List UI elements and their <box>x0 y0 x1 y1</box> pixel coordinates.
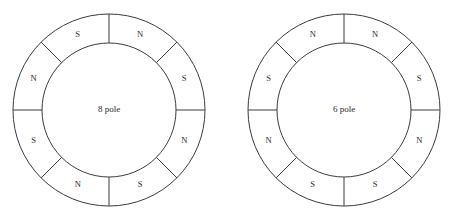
diagram-canvas: NSNSNSNS8 poleNSNSSNSN6 pole <box>0 0 455 221</box>
pole-segment-label: S <box>75 29 80 39</box>
pole-segment-label: N <box>181 135 187 145</box>
pole-segment-label: N <box>416 135 422 145</box>
pole-segment-label: N <box>310 29 316 39</box>
pole-segment-label: S <box>310 179 315 189</box>
pole-segment-label: N <box>75 179 81 189</box>
pole-segment-label: N <box>137 29 143 39</box>
left-diagram: NSNSNSNS8 pole <box>13 14 205 206</box>
right-diagram: NSNSSNSN6 pole <box>248 14 440 206</box>
pole-segment-label: S <box>373 179 378 189</box>
pole-segment-label: S <box>417 73 422 83</box>
pole-segment-label: N <box>372 29 378 39</box>
pole-segment-label: S <box>266 73 271 83</box>
hub-center-label: 8 pole <box>98 104 120 114</box>
pole-segment-label: S <box>138 179 143 189</box>
hub-center-label: 6 pole <box>333 104 355 114</box>
pole-segment-label: N <box>266 135 272 145</box>
pole-segment-label: S <box>31 135 36 145</box>
pole-segment-label: S <box>182 73 187 83</box>
rotor-pole-diagrams: NSNSNSNS8 poleNSNSSNSN6 pole <box>0 0 455 221</box>
pole-segment-label: N <box>31 73 37 83</box>
